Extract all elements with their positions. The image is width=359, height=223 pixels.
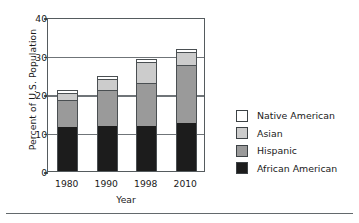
x-axis-title: Year [47,194,205,205]
bar-segment-1980-hispanic [57,100,78,127]
y-tick-label-30: 30 [19,51,47,62]
bar-1998 [136,59,157,171]
chart-legend: Native AmericanAsianHispanicAfrican Amer… [236,107,337,177]
bar-segment-1998-asian [136,62,157,83]
legend-row-native-american: Native American [236,107,337,125]
legend-row-african-american: African American [236,160,337,178]
y-tick-label-20: 20 [19,90,47,101]
x-tick-label-2010: 2010 [162,178,208,189]
stacked-bar-chart-figure: Percent of U.S. Population 403020100 198… [0,0,359,223]
legend-label-hispanic: Hispanic [257,145,297,156]
legend-swatch-hispanic [236,145,248,157]
y-tick-label-10: 10 [19,128,47,139]
legend-row-hispanic: Hispanic [236,142,337,160]
legend-row-asian: Asian [236,125,337,143]
bar-2010 [176,49,197,171]
legend-swatch-native-american [236,110,248,122]
bar-segment-2010-asian [176,52,197,65]
plot-area [47,18,205,172]
bar-1980 [57,90,78,171]
legend-swatch-asian [236,127,248,139]
bar-segment-1980-african-american [57,127,78,171]
legend-label-african-american: African American [257,163,337,174]
bar-1990 [97,76,118,171]
bar-segment-2010-hispanic [176,65,197,123]
bar-segment-1990-hispanic [97,90,118,126]
bottom-divider-rule [6,213,353,214]
bar-segment-1990-african-american [97,126,118,171]
y-tick-label-40: 40 [19,13,47,24]
legend-label-native-american: Native American [257,110,335,121]
bar-segment-1990-asian [97,79,118,91]
y-tick-label-0: 0 [19,167,47,178]
bar-segment-1998-hispanic [136,83,157,125]
bar-segment-1998-african-american [136,126,157,171]
legend-swatch-african-american [236,162,248,174]
legend-label-asian: Asian [257,128,283,139]
bar-segment-2010-african-american [176,123,197,171]
